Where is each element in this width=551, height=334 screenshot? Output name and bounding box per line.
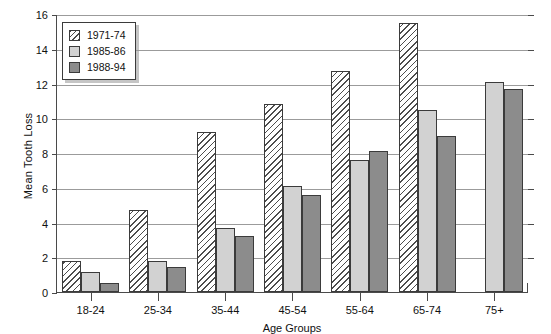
y-tick-right	[528, 85, 534, 86]
legend-swatch-1985-86	[69, 46, 80, 57]
y-tick-right	[528, 15, 534, 16]
bar-1971-74-25-34	[129, 210, 148, 292]
x-tick	[360, 292, 361, 301]
bar-1988-94-18-24	[100, 283, 119, 292]
bar-1985-86-25-34	[148, 261, 167, 292]
y-tick-label: 16	[36, 9, 48, 21]
x-tick-label: 55-64	[326, 304, 393, 316]
bar-1988-94-45-54	[302, 195, 321, 292]
bar-1985-86-18-24	[81, 272, 100, 292]
bar-1985-86-35-44	[216, 228, 235, 292]
legend-label: 1988-94	[87, 61, 126, 73]
x-tick-label: 65-74	[393, 304, 460, 316]
legend-label: 1971-74	[87, 29, 126, 41]
x-tick-label: 35-44	[192, 304, 259, 316]
bar-group: 35-44	[192, 15, 259, 292]
y-tick-label: 6	[42, 183, 48, 195]
x-axis-title: Age Groups	[56, 322, 528, 334]
y-tick-label: 8	[42, 148, 48, 160]
bar-group: 55-64	[326, 15, 393, 292]
x-tick-label: 25-34	[124, 304, 191, 316]
bars	[326, 15, 393, 292]
bar-1971-74-65-74	[399, 23, 418, 292]
y-tick-right	[528, 258, 534, 259]
x-tick-label: 18-24	[57, 304, 124, 316]
bar-1985-86-45-54	[283, 186, 302, 292]
bar-1985-86-55-64	[350, 160, 369, 292]
y-tick-right	[528, 189, 534, 190]
chart-legend: 1971-74 1985-86 1988-94	[62, 22, 136, 80]
y-tick-right	[528, 119, 534, 120]
x-tick	[158, 292, 159, 301]
y-tick-label: 4	[42, 218, 48, 230]
bars	[461, 15, 528, 292]
x-tick	[427, 292, 428, 301]
bar-1971-74-18-24	[62, 261, 81, 292]
y-tick-label: 14	[36, 44, 48, 56]
bar-1988-94-75+	[504, 89, 523, 292]
y-tick-right	[528, 154, 534, 155]
x-tick	[91, 292, 92, 301]
bar-1985-86-65-74	[418, 110, 437, 292]
y-tick	[52, 293, 57, 294]
bar-group: 65-74	[393, 15, 460, 292]
legend-swatch-1988-94	[69, 62, 80, 73]
legend-swatch-1971-74	[69, 30, 80, 41]
bar-group: 45-54	[259, 15, 326, 292]
legend-item: 1971-74	[69, 28, 126, 42]
y-tick-label: 10	[36, 113, 48, 125]
bar-group: 75+	[461, 15, 528, 292]
x-tick-label: 75+	[461, 304, 528, 316]
legend-item: 1985-86	[69, 44, 126, 58]
bars	[393, 15, 460, 292]
bar-1988-94-35-44	[235, 236, 254, 292]
bar-1988-94-25-34	[167, 267, 186, 292]
y-tick-label: 12	[36, 79, 48, 91]
bars	[259, 15, 326, 292]
y-axis-title: Mean Tooth Loss	[22, 76, 34, 236]
bars	[192, 15, 259, 292]
x-tick	[292, 292, 293, 301]
legend-item: 1988-94	[69, 60, 126, 74]
bar-1971-74-35-44	[197, 132, 216, 292]
x-tick	[225, 292, 226, 301]
x-tick-label: 45-54	[259, 304, 326, 316]
bar-1971-74-45-54	[264, 104, 283, 292]
y-tick-right	[528, 224, 534, 225]
bar-1988-94-55-64	[369, 151, 388, 292]
y-tick-label: 0	[42, 287, 48, 299]
y-tick-label: 2	[42, 252, 48, 264]
bar-1985-86-75+	[485, 82, 504, 292]
y-tick-right	[528, 50, 534, 51]
x-tick	[494, 292, 495, 301]
bar-1971-74-55-64	[331, 71, 350, 292]
legend-label: 1985-86	[87, 45, 126, 57]
bar-1988-94-65-74	[437, 136, 456, 292]
